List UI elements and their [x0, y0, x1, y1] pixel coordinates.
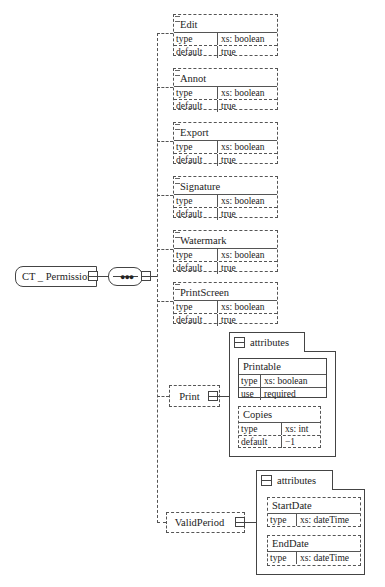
element-watermark[interactable]: Watermark typexs: boolean defaulttrue: [173, 230, 278, 272]
collapse-icon[interactable]: [261, 475, 272, 486]
element-printscreen[interactable]: PrintScreen typexs: boolean defaulttrue: [173, 282, 278, 324]
sequence-icon: ●●●: [120, 274, 133, 280]
element-icon: [175, 178, 180, 184]
root-type-ct-permission[interactable]: CT _ Permission: [15, 266, 97, 287]
print-expand-icon[interactable]: [208, 391, 218, 401]
element-icon: [175, 284, 180, 290]
element-icon: [175, 70, 180, 76]
element-signature[interactable]: Signature typexs: boolean defaulttrue: [173, 176, 278, 218]
sequence-spine: [157, 33, 158, 523]
print-attributes-group: attributes Printable typexs: boolean use…: [229, 332, 336, 457]
validperiod-attributes-tab[interactable]: attributes: [256, 470, 333, 490]
element-icon: [175, 232, 180, 238]
element-validperiod[interactable]: ValidPeriod: [166, 512, 245, 533]
root-connector: [98, 276, 108, 277]
element-annot[interactable]: Annot typexs: boolean defaulttrue: [173, 68, 278, 110]
sequence-expand-icon[interactable]: [141, 271, 151, 281]
attribute-startdate[interactable]: StartDate typexs: dateTime: [267, 497, 361, 527]
validperiod-attributes-group: attributes StartDate typexs: dateTime En…: [256, 470, 365, 575]
root-type-label: CT _ Permission: [22, 271, 92, 282]
attribute-printable[interactable]: Printable typexs: boolean userequired: [238, 358, 327, 398]
element-icon: [175, 16, 180, 22]
root-expand-icon[interactable]: [88, 271, 98, 281]
print-attributes-tab[interactable]: attributes: [229, 332, 305, 352]
collapse-icon[interactable]: [234, 337, 245, 348]
attribute-enddate[interactable]: EndDate typexs: dateTime: [267, 535, 361, 566]
validperiod-expand-icon[interactable]: [235, 517, 245, 527]
element-icon: [175, 124, 180, 130]
sequence-compositor[interactable]: ●●●: [108, 267, 143, 286]
attribute-copies[interactable]: Copies typexs: int default−1: [238, 406, 321, 448]
element-export[interactable]: Export typexs: boolean defaulttrue: [173, 122, 278, 164]
element-edit[interactable]: Edit typexs: boolean defaulttrue: [173, 14, 278, 56]
